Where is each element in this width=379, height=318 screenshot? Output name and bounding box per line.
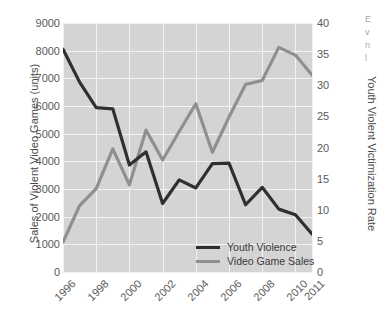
y-axis-left-tick-label: 0 (54, 267, 60, 278)
legend-label-youth-violence: Youth Violence (227, 241, 296, 253)
y-axis-right-tick-label: 30 (317, 80, 329, 91)
y-axis-right-tick-label: 10 (317, 204, 329, 215)
chart-legend: Youth Violence Video Game Sales (196, 240, 314, 268)
y-axis-right-tick-label: 15 (317, 173, 329, 184)
y-axis-right-tick-label: 5 (317, 235, 323, 246)
y-axis-right-ticks: 0510152025303540 (317, 0, 347, 318)
margin-text-line: E (365, 14, 379, 25)
y-axis-right-tick-label: 0 (317, 267, 323, 278)
y-axis-right-tick-label: 35 (317, 49, 329, 60)
legend-item-youth-violence: Youth Violence (196, 240, 314, 254)
y-axis-right-tick-label: 40 (317, 18, 329, 29)
y-axis-right-tick-label: 20 (317, 142, 329, 153)
legend-swatch-video-game-sales (196, 260, 220, 263)
legend-swatch-youth-violence (196, 246, 220, 249)
margin-text-line: l (365, 53, 379, 64)
legend-label-video-game-sales: Video Game Sales (227, 255, 314, 267)
y-axis-left-title: Sales of Violent Video Games (units) (29, 54, 40, 254)
legend-item-video-game-sales: Video Game Sales (196, 254, 314, 268)
chart-figure: 0100020003000400050006000700080009000 05… (0, 0, 379, 318)
y-axis-right-tick-label: 25 (317, 111, 329, 122)
margin-text-line: v (365, 27, 379, 38)
y-axis-right-title: Youth Violent Victimization Rate (366, 54, 377, 254)
margin-text-line: n (365, 40, 379, 51)
y-axis-left-tick-label: 9000 (36, 18, 60, 29)
